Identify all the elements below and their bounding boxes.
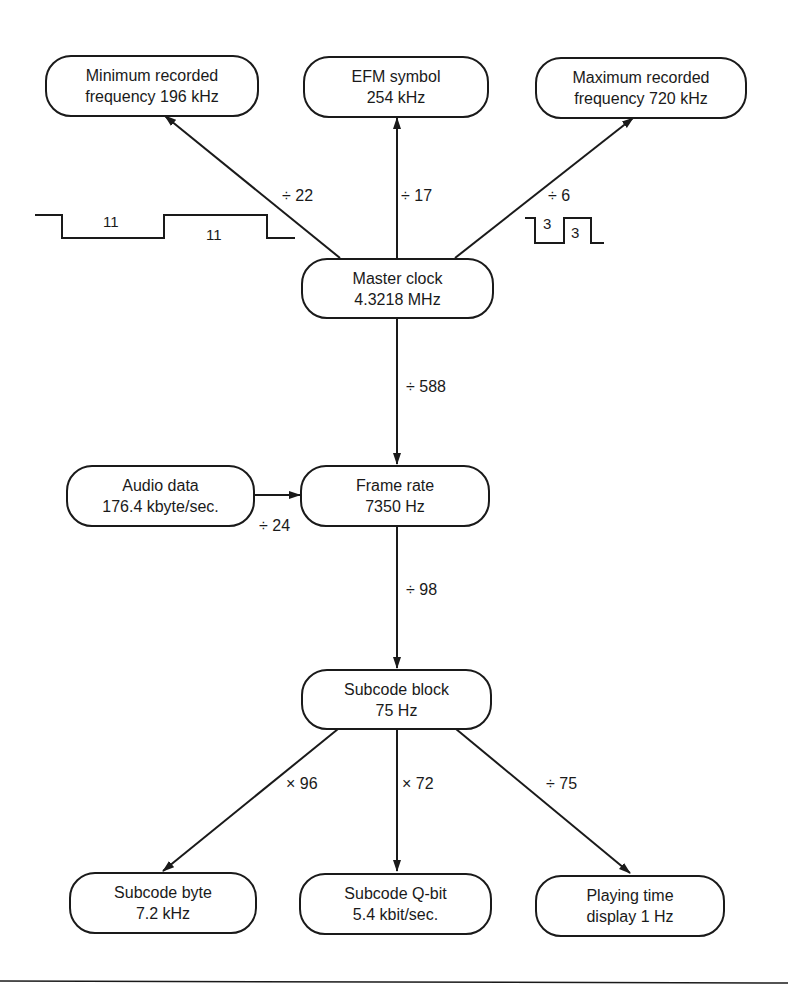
node-efm-symbol: EFM symbol 254 kHz — [303, 56, 489, 118]
edge-label-div98: ÷ 98 — [406, 581, 437, 599]
node-line1: Subcode Q-bit — [344, 883, 446, 904]
node-line1: Frame rate — [356, 475, 434, 496]
node-line2: display 1 Hz — [586, 906, 673, 927]
arrow-to-subcode-byte — [163, 729, 338, 871]
node-subcode-q-bit: Subcode Q-bit 5.4 kbit/sec. — [299, 873, 492, 935]
node-master-clock: Master clock 4.3218 MHz — [301, 258, 494, 319]
node-line2: 176.4 kbyte/sec. — [102, 496, 219, 517]
node-line2: 7.2 kHz — [136, 903, 190, 924]
node-line2: frequency 720 kHz — [574, 88, 707, 109]
node-frame-rate: Frame rate 7350 Hz — [300, 465, 490, 527]
node-playing-time-display: Playing time display 1 Hz — [535, 875, 725, 937]
edge-label-div24: ÷ 24 — [259, 517, 290, 535]
bottom-rule — [0, 981, 788, 983]
node-subcode-byte: Subcode byte 7.2 kHz — [69, 872, 257, 934]
node-line1: EFM symbol — [352, 66, 441, 87]
edge-label-div588: ÷ 588 — [406, 378, 446, 396]
waveform-11t-label-2: 11 — [206, 226, 222, 243]
node-line2: 254 kHz — [367, 87, 426, 108]
node-line2: 75 Hz — [376, 700, 418, 721]
edge-label-div6: ÷ 6 — [548, 187, 570, 205]
edge-label-div75: ÷ 75 — [546, 775, 577, 793]
edge-label-div22: ÷ 22 — [282, 187, 313, 205]
arrow-to-max-freq — [455, 118, 633, 258]
edge-label-times72: × 72 — [402, 775, 434, 793]
node-line2: 5.4 kbit/sec. — [353, 904, 438, 925]
node-min-recorded-frequency: Minimum recorded frequency 196 kHz — [45, 55, 259, 117]
node-max-recorded-frequency: Maximum recorded frequency 720 kHz — [535, 57, 747, 119]
waveform-3t-label-2: 3 — [571, 224, 579, 241]
node-subcode-block: Subcode block 75 Hz — [301, 669, 492, 730]
node-line1: Audio data — [122, 475, 199, 496]
waveform-3t-icon — [525, 218, 604, 243]
node-line1: Playing time — [586, 885, 673, 906]
waveform-11t-icon — [35, 215, 295, 238]
node-line1: Subcode byte — [114, 882, 212, 903]
arrow-to-min-freq — [165, 116, 340, 258]
node-line2: 7350 Hz — [365, 496, 425, 517]
node-line1: Master clock — [353, 268, 443, 289]
node-line1: Subcode block — [344, 679, 449, 700]
node-audio-data: Audio data 176.4 kbyte/sec. — [66, 465, 255, 527]
edge-label-times96: × 96 — [286, 775, 318, 793]
waveform-11t-label-1: 11 — [103, 213, 119, 230]
waveform-3t-label-1: 3 — [543, 215, 551, 232]
node-line2: frequency 196 kHz — [85, 86, 218, 107]
node-line2: 4.3218 MHz — [354, 289, 440, 310]
arrow-to-playing-time — [456, 729, 630, 873]
node-line1: Maximum recorded — [573, 67, 710, 88]
node-line1: Minimum recorded — [86, 65, 218, 86]
edge-label-div17: ÷ 17 — [401, 187, 432, 205]
